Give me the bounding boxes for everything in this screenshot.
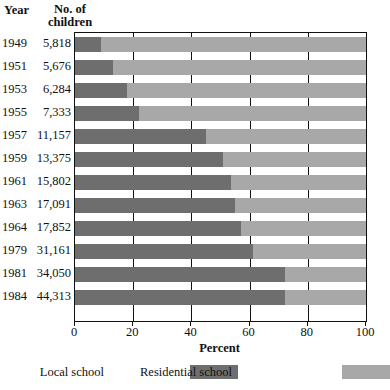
x-axis-title: Percent bbox=[74, 341, 365, 356]
bar-row bbox=[75, 102, 366, 125]
table-row: 197931,161 bbox=[0, 239, 74, 262]
bar-segment-local-school bbox=[75, 60, 113, 75]
row-children-count: 15,802 bbox=[32, 170, 71, 193]
bar-segment-local-school bbox=[75, 221, 241, 236]
x-axis-tick-label: 40 bbox=[170, 325, 210, 340]
bar-segment-residential-school bbox=[127, 83, 366, 98]
bar-segment-local-school bbox=[75, 129, 206, 144]
row-children-count: 13,375 bbox=[32, 147, 71, 170]
row-children-count: 7,333 bbox=[32, 101, 71, 124]
row-year-label: 1957 bbox=[2, 124, 36, 147]
table-row: 198134,050 bbox=[0, 262, 74, 285]
row-year-label: 1955 bbox=[2, 101, 36, 124]
bar-row bbox=[75, 125, 366, 148]
bar-row bbox=[75, 171, 366, 194]
bar-segment-residential-school bbox=[231, 175, 366, 190]
table-row: 195711,157 bbox=[0, 124, 74, 147]
table-row: 19557,333 bbox=[0, 101, 74, 124]
bar-segment-local-school bbox=[75, 106, 139, 121]
bar-row bbox=[75, 148, 366, 171]
bar-segment-local-school bbox=[75, 175, 231, 190]
table-row: 196115,802 bbox=[0, 170, 74, 193]
row-children-count: 5,818 bbox=[32, 32, 71, 55]
bar-segment-residential-school bbox=[206, 129, 366, 144]
bar-row bbox=[75, 240, 366, 263]
column-header-number-line1: No. of bbox=[54, 2, 86, 16]
table-row: 196317,091 bbox=[0, 193, 74, 216]
bar-segment-local-school bbox=[75, 267, 285, 282]
bar-segment-local-school bbox=[75, 83, 127, 98]
legend-color-swatch bbox=[342, 365, 390, 379]
x-axis-tick-label: 20 bbox=[112, 325, 152, 340]
row-children-count: 17,091 bbox=[32, 193, 71, 216]
bar-segment-residential-school bbox=[113, 60, 366, 75]
row-year-label: 1964 bbox=[2, 216, 36, 239]
bar-segment-residential-school bbox=[139, 106, 366, 121]
table-row: 19495,818 bbox=[0, 32, 74, 55]
column-header-number-line2: children bbox=[40, 16, 100, 29]
bar-segment-local-school bbox=[75, 152, 223, 167]
table-row: 19515,676 bbox=[0, 55, 74, 78]
bar-segment-residential-school bbox=[223, 152, 366, 167]
chart-legend: Local schoolResidential school bbox=[0, 363, 372, 383]
row-children-count: 5,676 bbox=[32, 55, 71, 78]
table-row: 195913,375 bbox=[0, 147, 74, 170]
bar-segment-residential-school bbox=[101, 37, 366, 52]
x-axis-tick-label: 80 bbox=[287, 325, 327, 340]
row-year-label: 1953 bbox=[2, 78, 36, 101]
table-row: 19536,284 bbox=[0, 78, 74, 101]
bar-segment-residential-school bbox=[253, 244, 366, 259]
x-axis-tick-label: 60 bbox=[229, 325, 269, 340]
bar-segment-local-school bbox=[75, 290, 285, 305]
bar-segment-local-school bbox=[75, 37, 101, 52]
bar-segment-local-school bbox=[75, 244, 253, 259]
row-year-label: 1984 bbox=[2, 285, 36, 308]
bar-row bbox=[75, 194, 366, 217]
bar-row bbox=[75, 79, 366, 102]
column-header-number-of-children: No. of children bbox=[40, 3, 100, 29]
row-children-count: 34,050 bbox=[32, 262, 71, 285]
bar-segment-local-school bbox=[75, 198, 235, 213]
row-children-count: 11,157 bbox=[32, 124, 71, 147]
bar-segment-residential-school bbox=[235, 198, 366, 213]
bar-row bbox=[75, 263, 366, 286]
x-axis-tick-label: 100 bbox=[345, 325, 385, 340]
row-year-label: 1949 bbox=[2, 32, 36, 55]
bar-row bbox=[75, 286, 366, 309]
bar-segment-residential-school bbox=[241, 221, 366, 236]
bar-segment-residential-school bbox=[285, 267, 366, 282]
x-axis-tick-label: 0 bbox=[54, 325, 94, 340]
row-year-label: 1959 bbox=[2, 147, 36, 170]
bar-row bbox=[75, 56, 366, 79]
row-year-label: 1961 bbox=[2, 170, 36, 193]
table-row: 198444,313 bbox=[0, 285, 74, 308]
row-year-label: 1981 bbox=[2, 262, 36, 285]
bar-row bbox=[75, 33, 366, 56]
row-children-count: 17,852 bbox=[32, 216, 71, 239]
row-year-label: 1979 bbox=[2, 239, 36, 262]
row-year-label: 1951 bbox=[2, 55, 36, 78]
row-children-count: 6,284 bbox=[32, 78, 71, 101]
legend-label: Local school bbox=[40, 363, 104, 381]
row-label-table: 19495,81819515,67619536,28419557,3331957… bbox=[0, 32, 74, 320]
row-children-count: 44,313 bbox=[32, 285, 71, 308]
bar-row bbox=[75, 217, 366, 240]
row-children-count: 31,161 bbox=[32, 239, 71, 262]
chart-plot-area bbox=[74, 32, 367, 322]
row-year-label: 1963 bbox=[2, 193, 36, 216]
bar-segment-residential-school bbox=[285, 290, 366, 305]
legend-label: Residential school bbox=[140, 363, 232, 381]
table-row: 196417,852 bbox=[0, 216, 74, 239]
